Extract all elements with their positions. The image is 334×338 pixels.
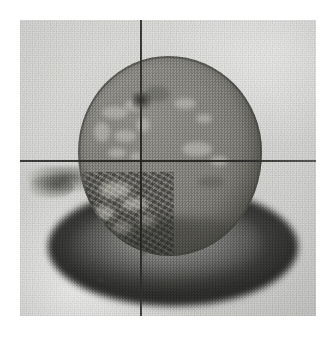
left-edge-fragment-core	[30, 176, 74, 198]
top-notch	[132, 92, 152, 110]
screenshot-root	[0, 0, 334, 338]
specimen-photograph	[20, 20, 316, 316]
horizontal-reference-line	[20, 160, 316, 162]
disc-rim	[78, 56, 262, 256]
disc-specimen	[78, 56, 262, 256]
vertical-reference-line	[140, 20, 142, 316]
speck-1	[98, 278, 103, 282]
speck-2	[142, 252, 146, 255]
